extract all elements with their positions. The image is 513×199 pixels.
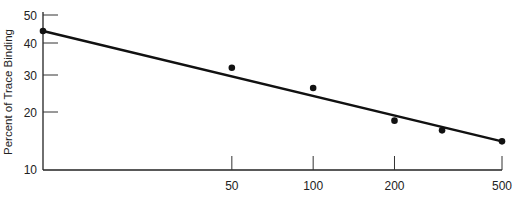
y-tick-label: 10 bbox=[24, 163, 38, 177]
x-tick-label: 100 bbox=[303, 179, 323, 193]
x-tick-label: 500 bbox=[492, 179, 512, 193]
data-point bbox=[391, 117, 398, 124]
x-tick-label: 50 bbox=[225, 179, 239, 193]
data-point bbox=[499, 138, 506, 145]
y-tick-label: 20 bbox=[24, 106, 38, 120]
fit-line bbox=[43, 31, 502, 141]
y-axis-title: Percent of Trace Binding bbox=[2, 29, 14, 155]
data-point bbox=[439, 127, 446, 134]
data-point bbox=[310, 85, 317, 92]
x-tick-label: 200 bbox=[384, 179, 404, 193]
x-ticks: 50100200500 bbox=[225, 156, 512, 193]
y-tick-label: 30 bbox=[24, 69, 38, 83]
data-point bbox=[229, 65, 236, 72]
plot-area bbox=[40, 28, 506, 145]
y-tick-label: 40 bbox=[24, 37, 38, 51]
chart: Percent of Trace Binding 1020304050 5010… bbox=[0, 0, 513, 199]
y-tick-label: 50 bbox=[24, 9, 38, 23]
axes bbox=[43, 12, 502, 170]
data-point bbox=[40, 28, 47, 35]
